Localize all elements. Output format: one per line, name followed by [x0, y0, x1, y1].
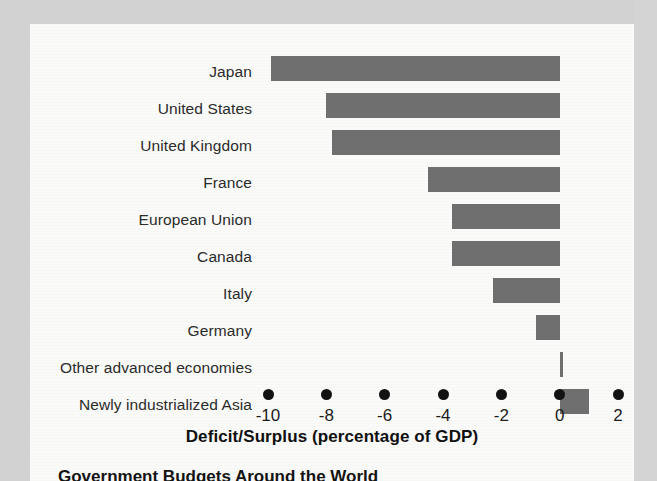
category-label-japan: Japan	[0, 64, 252, 80]
tick-label-neg10: -10	[238, 407, 298, 424]
category-label-germany: Germany	[0, 323, 252, 339]
bar-italy	[493, 278, 560, 303]
bar-united-kingdom	[332, 130, 560, 155]
bar-chart: Japan United States United Kingdom Franc…	[30, 24, 634, 481]
category-label-united-kingdom: United Kingdom	[0, 138, 252, 154]
category-label-european-union: European Union	[0, 212, 252, 228]
bar-other-advanced-economies	[560, 352, 563, 377]
tick-dot-neg8	[321, 389, 332, 400]
tick-label-neg6: -6	[355, 407, 415, 424]
tick-dot-pos2	[613, 389, 624, 400]
tick-dot-neg4	[438, 389, 449, 400]
tick-label-pos2: 2	[588, 407, 648, 424]
tick-label-neg4: -4	[413, 407, 473, 424]
tick-dot-neg10	[263, 389, 274, 400]
tick-label-zero: 0	[530, 407, 590, 424]
x-axis-title: Deficit/Surplus (percentage of GDP)	[30, 427, 634, 447]
category-label-canada: Canada	[0, 249, 252, 265]
figure-caption: Government Budgets Around the World	[58, 467, 618, 481]
category-label-newly-industrialized-asia: Newly industrialized Asia	[0, 397, 252, 413]
page-margin-top	[0, 0, 657, 24]
tick-label-neg8: -8	[296, 407, 356, 424]
tick-dot-neg6	[379, 389, 390, 400]
tick-dot-neg2	[496, 389, 507, 400]
category-label-other-advanced-economies: Other advanced economies	[0, 360, 252, 376]
figure-sheet: Japan United States United Kingdom Franc…	[30, 24, 634, 481]
bar-canada	[452, 241, 560, 266]
figure-page: Japan United States United Kingdom Franc…	[0, 0, 657, 481]
category-label-italy: Italy	[0, 286, 252, 302]
bar-japan	[271, 56, 560, 81]
bar-germany	[536, 315, 559, 340]
category-label-united-states: United States	[0, 101, 252, 117]
bar-united-states	[326, 93, 559, 118]
tick-label-neg2: -2	[471, 407, 531, 424]
bar-france	[428, 167, 559, 192]
category-label-france: France	[0, 175, 252, 191]
bar-european-union	[452, 204, 560, 229]
